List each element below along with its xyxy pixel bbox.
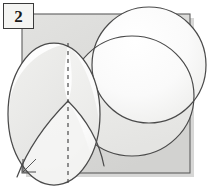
figure-number-box: 2 [3, 3, 34, 29]
figure-canvas [0, 0, 212, 195]
figure-number-text: 2 [14, 8, 23, 25]
figure-root: 2 [0, 0, 212, 195]
